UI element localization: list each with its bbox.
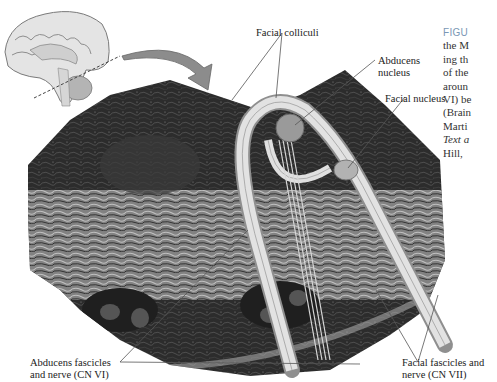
caption-line-8: Text a [443,133,471,146]
caption-line-3: of the [443,66,471,79]
caption-line-7: Marti [443,120,471,133]
label-abducens-nerve-line1: Abducens fascicles [30,357,111,369]
label-facial-nerve: Facial fascicles and nerve (CN VII) [402,357,484,381]
caption-line-1: the M [443,39,471,52]
caption-line-6: (Brain [443,106,471,119]
label-abducens-nerve: Abducens fascicles and nerve (CN VI) [30,357,111,381]
label-abducens-nucleus: Abducens nucleus [378,55,420,79]
figure: Facial colliculi Abducens nucleus Facial… [0,0,497,382]
label-abducens-nerve-line2: and nerve (CN VI) [30,369,111,381]
brain-sagittal-icon [5,12,120,106]
figure-caption: FIGU the M ing th of the aroun VI) be (B… [443,26,471,160]
caption-line-2: ing th [443,53,471,66]
label-facial-nerve-line2: nerve (CN VII) [402,369,484,381]
caption-line-4: aroun [443,80,471,93]
label-facial-nerve-line1: Facial fascicles and [402,357,484,369]
caption-line-9: Hill, [443,147,471,160]
facial-nucleus-marker [334,160,358,180]
label-abducens-nucleus-line1: Abducens [378,55,420,67]
brainstem-diagram [0,0,497,382]
caption-line-0: FIGU [443,26,471,39]
label-facial-nucleus: Facial nucleus [385,93,445,105]
label-abducens-nucleus-line2: nucleus [378,67,420,79]
abducens-nucleus-marker [276,114,304,142]
label-facial-colliculi: Facial colliculi [256,27,319,39]
caption-line-5: VI) be [443,93,471,106]
